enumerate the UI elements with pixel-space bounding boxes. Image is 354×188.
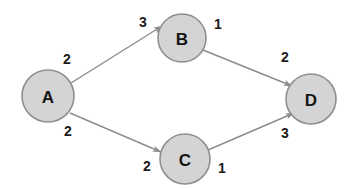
edge-a-to-b [71, 26, 162, 83]
edge-c-to-d-head-weight: 3 [281, 125, 289, 141]
node-b-label: B [176, 30, 188, 49]
edge-a-to-c-head-weight: 2 [143, 158, 151, 174]
node-d-label: D [305, 91, 317, 110]
edge-a-to-c [70, 113, 161, 152]
graph-diagram-canvas: A B C D 2 3 1 2 2 2 1 3 [0, 0, 354, 188]
edge-b-to-d-head-weight: 2 [281, 49, 289, 65]
graph-svg: A B C D 2 3 1 2 2 2 1 3 [0, 0, 354, 188]
edge-c-to-d-tail-weight: 1 [218, 160, 226, 176]
edge-a-to-b-tail-weight: 2 [63, 51, 71, 67]
node-a-label: A [42, 88, 54, 107]
edge-b-to-d [203, 50, 292, 86]
node-group: A B C D [22, 14, 336, 184]
edge-a-to-b-head-weight: 3 [139, 14, 147, 30]
edge-b-to-d-tail-weight: 1 [214, 16, 222, 32]
node-c-label: C [179, 151, 191, 170]
edge-a-to-c-tail-weight: 2 [64, 123, 72, 139]
